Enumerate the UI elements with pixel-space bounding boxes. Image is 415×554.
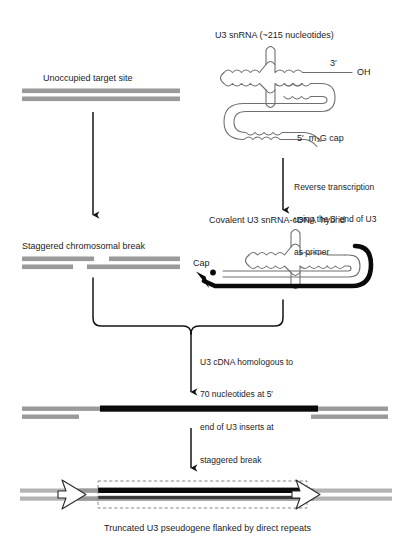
five-prime-cap-label: 5′ m₃G cap — [297, 133, 344, 145]
hybrid-title: Covalent U3 snRNA-cDNA hybrid — [209, 215, 345, 227]
direct-repeat-arrow-left — [58, 480, 86, 509]
u3-snrna-title: U3 snRNA (~215 nucleotides) — [215, 30, 334, 42]
cap-dot — [210, 270, 216, 276]
unoccupied-target-site-duplex — [22, 89, 180, 102]
rt-line-3: as primer — [294, 247, 376, 258]
staggered-break-label: Staggered chromosomal break — [22, 241, 145, 253]
ins-line-3: end of U3 inserts at — [200, 422, 293, 433]
rt-line-1: Reverse transcription — [294, 182, 376, 193]
cap-label: Cap — [193, 258, 210, 270]
ins-line-2: 70 nucleotides at 5′ — [200, 389, 293, 400]
five-prime-cap-text: 5′ m₃G cap — [297, 133, 344, 143]
ins-line-1: U3 cDNA homologous to — [200, 357, 293, 368]
ins-line-4: staggered break — [200, 455, 293, 466]
insertion-step: U3 cDNA homologous to 70 nucleotides at … — [200, 335, 293, 487]
three-prime-label: 3′ — [330, 58, 337, 70]
bottom-caption: Truncated U3 pseudogene flanked by direc… — [0, 523, 415, 535]
direct-repeat-arrow-right — [292, 480, 320, 509]
unoccupied-target-site-label: Unoccupied target site — [43, 73, 133, 85]
retroposition-diagram: U3 snRNA (~215 nucleotides) 3′ OH 5′ m₃G… — [0, 0, 415, 554]
oh-label: OH — [357, 67, 371, 79]
staggered-break-duplex — [22, 257, 180, 270]
